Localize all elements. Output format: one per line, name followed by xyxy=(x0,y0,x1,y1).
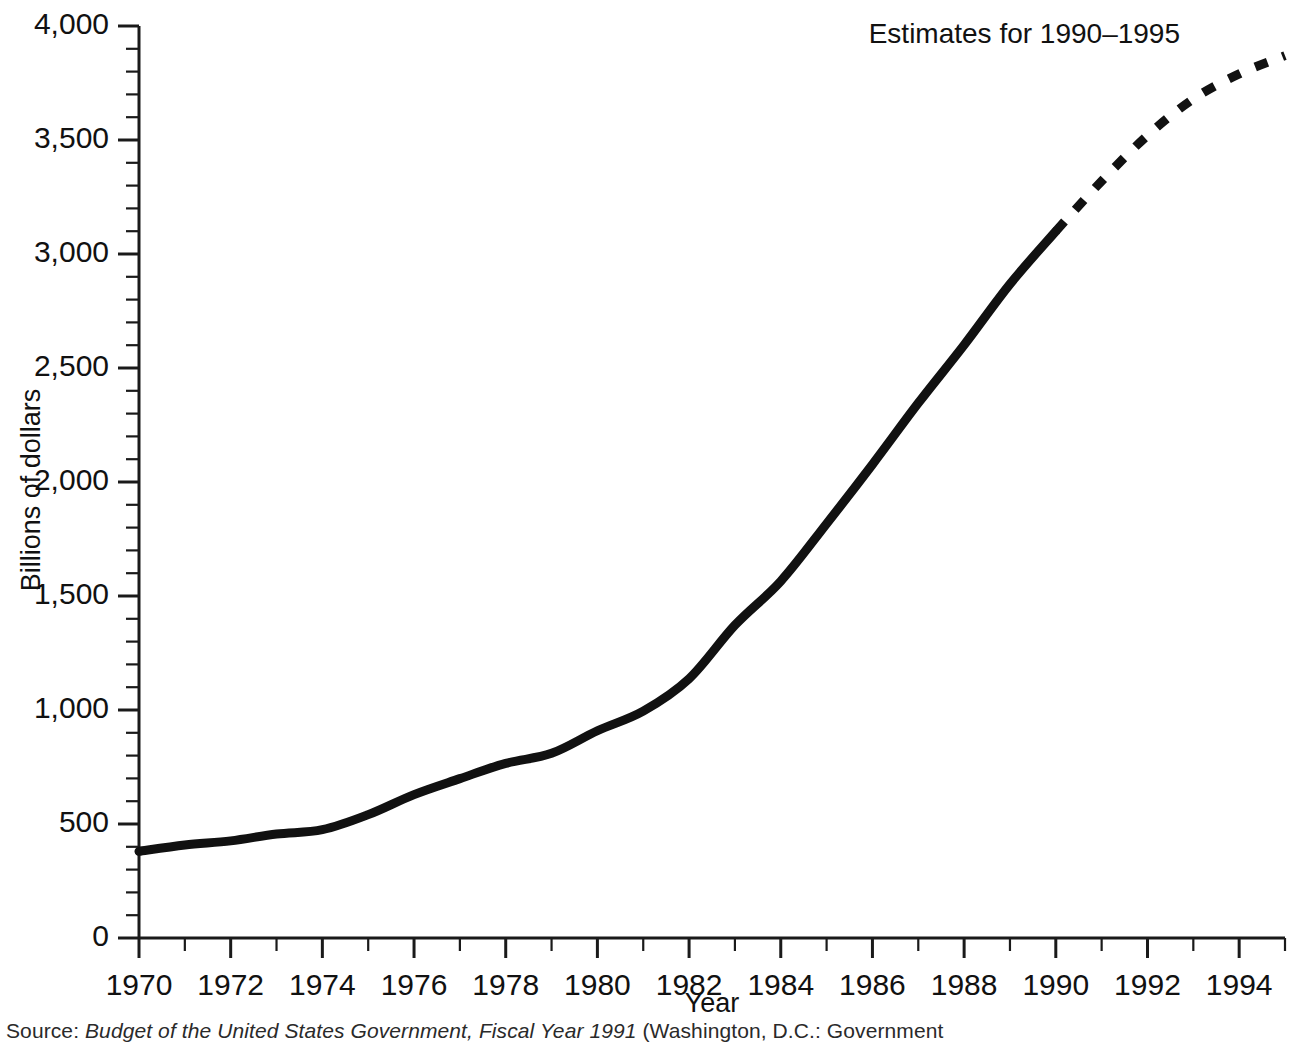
x-tick-label: 1984 xyxy=(747,968,814,1001)
y-tick-label: 4,000 xyxy=(34,7,109,40)
x-tick-label: 1970 xyxy=(106,968,173,1001)
x-tick-label: 1988 xyxy=(931,968,998,1001)
y-tick-label: 0 xyxy=(92,919,109,952)
x-tick-label: 1992 xyxy=(1114,968,1181,1001)
series-actual-line xyxy=(139,231,1056,851)
x-tick-label: 1978 xyxy=(472,968,539,1001)
source-note: Source: Budget of the United States Gove… xyxy=(6,1019,943,1043)
y-axis-title: Billions of dollars xyxy=(16,389,46,592)
y-tick-label: 1,000 xyxy=(34,691,109,724)
y-tick-label: 2,500 xyxy=(34,349,109,382)
y-axis-ticks xyxy=(118,26,139,938)
x-tick-label: 1976 xyxy=(381,968,448,1001)
x-tick-label: 1994 xyxy=(1206,968,1273,1001)
estimates-annotation: Estimates for 1990–1995 xyxy=(869,18,1180,49)
source-publisher: (Washington, D.C.: Government xyxy=(643,1019,944,1042)
series-estimates-line xyxy=(1056,56,1285,232)
series-group xyxy=(139,56,1285,852)
y-tick-label: 500 xyxy=(59,805,109,838)
x-axis-ticks xyxy=(139,938,1285,958)
source-title: Budget of the United States Government, … xyxy=(85,1019,637,1042)
y-tick-label: 3,500 xyxy=(34,121,109,154)
x-tick-label: 1974 xyxy=(289,968,356,1001)
x-tick-label: 1980 xyxy=(564,968,631,1001)
x-axis-title: Year xyxy=(685,988,740,1018)
x-tick-label: 1972 xyxy=(197,968,264,1001)
x-tick-label: 1990 xyxy=(1022,968,1089,1001)
x-tick-label: 1986 xyxy=(839,968,906,1001)
source-label: Source: xyxy=(6,1019,79,1042)
y-tick-label: 3,000 xyxy=(34,235,109,268)
